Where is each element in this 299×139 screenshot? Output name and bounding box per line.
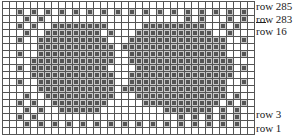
chart-cell	[52, 37, 59, 44]
chart-cell	[87, 16, 94, 23]
chart-cell	[59, 107, 66, 114]
chart-cell	[17, 9, 24, 16]
chart-cell	[129, 2, 136, 9]
chart-cell	[220, 121, 227, 128]
chart-cell	[73, 23, 80, 30]
chart-cell	[17, 37, 24, 44]
chart-cell	[157, 93, 164, 100]
chart-cell	[178, 2, 185, 9]
chart-cell	[66, 23, 73, 30]
label-row-16: row 16	[256, 26, 287, 37]
chart-cell	[150, 114, 157, 121]
chart-cell	[199, 86, 206, 93]
chart-cell	[66, 100, 73, 107]
chart-cell	[241, 93, 248, 100]
chart-cell	[122, 72, 129, 79]
chart-cell	[17, 121, 24, 128]
chart-cell	[220, 107, 227, 114]
chart-cell	[213, 58, 220, 65]
chart-cell	[164, 121, 171, 128]
chart-cell	[234, 51, 241, 58]
chart-cell	[66, 93, 73, 100]
chart-cell	[101, 16, 108, 23]
label-row-1: row 1	[256, 123, 281, 134]
chart-cell	[248, 128, 255, 135]
chart-cell	[101, 37, 108, 44]
chart-cell	[192, 93, 199, 100]
chart-cell	[87, 58, 94, 65]
chart-cell	[87, 37, 94, 44]
chart-cell	[115, 128, 122, 135]
chart-cell	[66, 58, 73, 65]
chart-cell	[59, 100, 66, 107]
chart-cell	[94, 79, 101, 86]
chart-cell	[178, 107, 185, 114]
chart-cell	[248, 79, 255, 86]
chart-cell	[122, 86, 129, 93]
chart-cell	[248, 58, 255, 65]
chart-cell	[136, 79, 143, 86]
chart-cell	[94, 72, 101, 79]
chart-cell	[150, 79, 157, 86]
chart-cell	[185, 107, 192, 114]
chart-cell	[115, 2, 122, 9]
chart-cell	[24, 107, 31, 114]
chart-cell	[213, 107, 220, 114]
chart-cell	[164, 93, 171, 100]
chart-cell	[45, 30, 52, 37]
chart-cell	[234, 65, 241, 72]
chart-cell	[31, 72, 38, 79]
chart-cell	[143, 30, 150, 37]
chart-cell	[136, 72, 143, 79]
chart-cell	[192, 114, 199, 121]
chart-cell	[178, 79, 185, 86]
chart-cell	[108, 16, 115, 23]
chart-cell	[129, 30, 136, 37]
chart-cell	[171, 44, 178, 51]
chart-cell	[31, 51, 38, 58]
chart-cell	[94, 44, 101, 51]
chart-cell	[10, 114, 17, 121]
chart-cell	[87, 100, 94, 107]
chart-cell	[101, 93, 108, 100]
chart-cell	[206, 2, 213, 9]
chart-cell	[206, 51, 213, 58]
chart-cell	[157, 23, 164, 30]
chart-cell	[59, 23, 66, 30]
chart-cell	[199, 58, 206, 65]
chart-cell	[164, 30, 171, 37]
chart-cell	[164, 58, 171, 65]
chart-cell	[73, 2, 80, 9]
chart-cell	[115, 9, 122, 16]
chart-cell	[234, 2, 241, 9]
chart-cell	[157, 2, 164, 9]
chart-cell	[157, 16, 164, 23]
chart-cell	[3, 2, 10, 9]
chart-cell	[206, 65, 213, 72]
chart-cell	[94, 16, 101, 23]
chart-cell	[3, 114, 10, 121]
chart-cell	[101, 107, 108, 114]
chart-cell	[220, 86, 227, 93]
chart-cell	[220, 51, 227, 58]
chart-cell	[73, 114, 80, 121]
chart-cell	[213, 93, 220, 100]
chart-cell	[10, 58, 17, 65]
chart-cell	[122, 58, 129, 65]
chart-cell	[164, 128, 171, 135]
chart-cell	[227, 86, 234, 93]
chart-cell	[115, 79, 122, 86]
chart-cell	[185, 23, 192, 30]
chart-cell	[87, 23, 94, 30]
chart-cell	[241, 51, 248, 58]
chart-cell	[178, 128, 185, 135]
chart-cell	[122, 44, 129, 51]
chart-cell	[185, 86, 192, 93]
chart-cell	[206, 121, 213, 128]
chart-cell	[157, 121, 164, 128]
chart-cell	[143, 65, 150, 72]
chart-cell	[136, 65, 143, 72]
chart-cell	[206, 86, 213, 93]
chart-cell	[192, 37, 199, 44]
chart-cell	[3, 128, 10, 135]
